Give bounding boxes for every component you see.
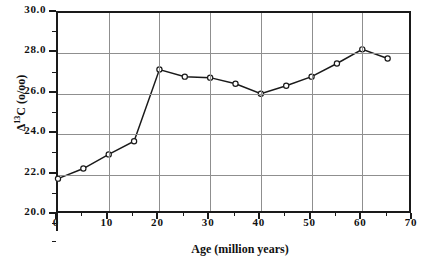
- gridline-horizontal: [58, 175, 409, 176]
- y-axis-extension: [56, 213, 58, 231]
- x-axis-minor-tick: [132, 213, 133, 216]
- x-axis-title: Age (million years): [150, 242, 330, 257]
- x-axis-tick-label: 20: [137, 216, 177, 228]
- x-axis-tick-label: 40: [239, 216, 279, 228]
- y-axis-tick: [49, 91, 56, 93]
- x-axis-tick-label: 70: [391, 216, 427, 228]
- chart-figure: 20.022.024.026.028.030.0010203040506070 …: [0, 0, 427, 270]
- x-axis-minor-tick: [335, 213, 336, 216]
- data-point-marker: [55, 176, 60, 181]
- x-axis-minor-tick: [386, 213, 387, 216]
- y-axis-tick: [49, 10, 56, 12]
- data-point-marker: [182, 74, 187, 79]
- gridline-vertical: [261, 13, 262, 211]
- data-series-line: [58, 13, 413, 215]
- x-axis-tick-label: 10: [87, 216, 127, 228]
- gridline-horizontal: [58, 94, 409, 95]
- y-axis-minor-tick: [52, 241, 56, 242]
- gridline-horizontal: [58, 134, 409, 135]
- x-axis-minor-tick: [183, 213, 184, 216]
- y-axis-tick: [49, 50, 56, 52]
- x-axis-minor-tick: [234, 213, 235, 216]
- y-axis-minor-tick: [52, 152, 56, 153]
- y-axis-minor-tick: [52, 193, 56, 194]
- y-axis-title: Δ13C (o/oo): [13, 43, 29, 163]
- x-axis-minor-tick: [81, 213, 82, 216]
- data-point-marker: [334, 61, 339, 66]
- y-axis-tick-label: 30.0: [24, 3, 46, 15]
- y-axis-title-delta: Δ: [14, 124, 28, 132]
- plot-area: [56, 11, 411, 213]
- y-axis-tick: [49, 172, 56, 174]
- y-axis-minor-tick: [52, 112, 56, 113]
- data-point-marker: [385, 56, 390, 61]
- series-polyline: [58, 49, 388, 178]
- y-axis-tick-label: 22.0: [24, 165, 46, 177]
- gridline-vertical: [362, 13, 363, 211]
- y-axis-minor-tick: [52, 31, 56, 32]
- gridline-horizontal: [58, 53, 409, 54]
- data-point-marker: [284, 83, 289, 88]
- x-axis-tick-label: 50: [290, 216, 330, 228]
- data-point-marker: [233, 81, 238, 86]
- gridline-vertical: [159, 13, 160, 211]
- data-point-marker: [131, 139, 136, 144]
- y-axis-title-superscript: 13: [13, 116, 22, 124]
- x-axis-tick-label: 60: [340, 216, 380, 228]
- gridline-vertical: [109, 13, 110, 211]
- data-point-marker: [81, 166, 86, 171]
- gridline-vertical: [210, 13, 211, 211]
- gridline-vertical: [312, 13, 313, 211]
- x-axis-minor-tick: [284, 213, 285, 216]
- y-axis-title-rest: C (o/oo): [14, 75, 28, 116]
- y-axis-minor-tick: [52, 72, 56, 73]
- y-axis-tick: [49, 131, 56, 133]
- x-axis-tick-label: 30: [188, 216, 228, 228]
